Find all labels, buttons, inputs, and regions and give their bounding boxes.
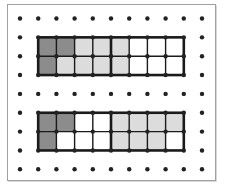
grid-dot (145, 167, 149, 171)
grid-dot (36, 92, 40, 96)
grid-dot (18, 35, 22, 39)
grid-dot (18, 129, 22, 133)
grid-dot (182, 16, 186, 20)
grid-dot (163, 16, 167, 20)
grid-dot (72, 111, 76, 115)
light-cell (129, 132, 147, 151)
light-cell (129, 113, 147, 132)
grid-dot (145, 148, 149, 152)
grid-dot (36, 129, 40, 133)
grid-dot (127, 167, 131, 171)
grid-dot (127, 148, 131, 152)
grid-dot (145, 73, 149, 77)
grid-dot (109, 148, 113, 152)
grid-dot (91, 35, 95, 39)
dark-cell (38, 56, 56, 75)
grid-dot (36, 73, 40, 77)
grid-dot (91, 54, 95, 58)
dark-cell (38, 37, 56, 56)
grid-dot (91, 148, 95, 152)
grid-dot (72, 148, 76, 152)
grid-dot (91, 73, 95, 77)
grid-dot (163, 73, 167, 77)
grid-dot (18, 73, 22, 77)
grid-dot (200, 92, 204, 96)
grid-dot (200, 148, 204, 152)
grid-dot (72, 167, 76, 171)
grid-dot (109, 73, 113, 77)
grid-dot (18, 92, 22, 96)
white-cell (129, 37, 147, 56)
white-cell (75, 132, 93, 151)
grid-dot (200, 111, 204, 115)
grid-dot (145, 16, 149, 20)
grid-dot (182, 35, 186, 39)
grid-dot (163, 35, 167, 39)
light-cell (111, 56, 129, 75)
dark-cell (38, 113, 56, 132)
white-cell (93, 132, 111, 151)
light-cell (56, 56, 74, 75)
white-cell (166, 132, 184, 151)
grid-dot (109, 92, 113, 96)
grid-dot (18, 111, 22, 115)
light-cell (166, 113, 184, 132)
dark-cell (56, 113, 74, 132)
grid-dot (36, 54, 40, 58)
grid-dot (18, 148, 22, 152)
white-cell (166, 56, 184, 75)
grid-dot (145, 54, 149, 58)
white-cell (147, 37, 165, 56)
grid-dot (91, 111, 95, 115)
grid-dot (18, 167, 22, 171)
grid-dot (72, 54, 76, 58)
grid-dot (72, 16, 76, 20)
grid-dot (145, 35, 149, 39)
grid-dot (54, 73, 58, 77)
grid-dot (145, 92, 149, 96)
grid-dot (163, 167, 167, 171)
grid-dot (54, 111, 58, 115)
grid-dot (109, 129, 113, 133)
grid-dot (109, 111, 113, 115)
grid-dot (54, 35, 58, 39)
grid-dot (200, 129, 204, 133)
grid-dot (127, 35, 131, 39)
grid-dot (54, 92, 58, 96)
grid-dot (200, 167, 204, 171)
grid-dot (163, 111, 167, 115)
grid-dot (109, 54, 113, 58)
grid-dot (163, 148, 167, 152)
grid-dot (182, 92, 186, 96)
grid-dot (182, 73, 186, 77)
light-cell (111, 37, 129, 56)
grid-dot (109, 167, 113, 171)
white-cell (129, 56, 147, 75)
grid-dot (127, 129, 131, 133)
grid-dot (127, 111, 131, 115)
grid-dot (182, 167, 186, 171)
light-cell (147, 113, 165, 132)
light-cell (147, 132, 165, 151)
grid-dot (163, 129, 167, 133)
grid-dot (72, 35, 76, 39)
grid-dot (200, 54, 204, 58)
grid-dot (91, 129, 95, 133)
white-cell (147, 56, 165, 75)
grid-dot (18, 16, 22, 20)
grid-dot (36, 111, 40, 115)
grid-dot (182, 111, 186, 115)
grid-dot (145, 129, 149, 133)
light-cell (111, 113, 129, 132)
grid-dot (145, 111, 149, 115)
grid-dot (200, 73, 204, 77)
grid-dot (109, 16, 113, 20)
dark-cell (38, 132, 56, 151)
grid-dot (182, 129, 186, 133)
light-cell (111, 132, 129, 151)
grid-dot (200, 16, 204, 20)
white-cell (75, 113, 93, 132)
grid-dot (182, 54, 186, 58)
grid-dot (127, 92, 131, 96)
grid-dot (127, 73, 131, 77)
